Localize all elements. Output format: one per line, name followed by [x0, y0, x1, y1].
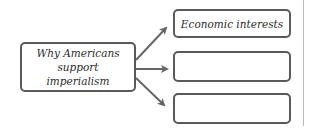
central-node-line-1: Why Americans: [26, 46, 130, 60]
central-node-line-2: support imperialism: [26, 60, 130, 88]
arrow-to-branch-1: [136, 28, 166, 60]
page-divider: [303, 0, 304, 126]
branch-node-blank-3[interactable]: [173, 93, 291, 124]
central-node: Why Americans support imperialism: [20, 42, 136, 92]
branch-node-blank-2[interactable]: [173, 51, 291, 82]
branch-node-economic-interests: Economic interests: [173, 9, 291, 38]
branch-1-label: Economic interests: [181, 17, 283, 31]
arrow-to-branch-3: [136, 78, 164, 105]
